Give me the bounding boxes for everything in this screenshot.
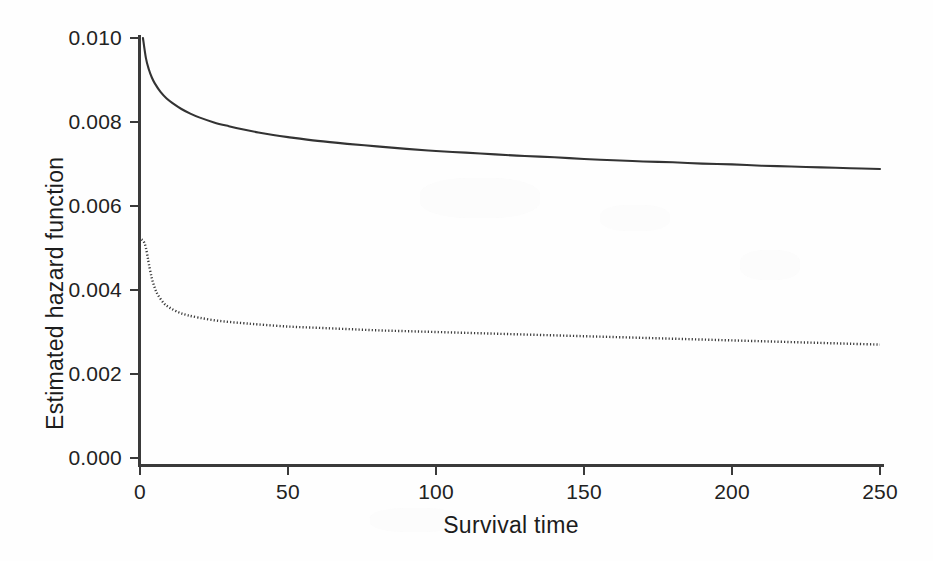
axis-group [130, 35, 884, 475]
x-tick-label: 0 [134, 480, 146, 504]
data-series-group [141, 38, 880, 345]
x-tick-label: 150 [566, 480, 602, 504]
plot-canvas [0, 0, 933, 561]
hazard-function-figure: 0.0000.0020.0040.0060.0080.010 050100150… [0, 0, 933, 561]
y-axis-ticks [130, 38, 139, 458]
y-axis-title: Estimated hazard function [42, 157, 69, 430]
series-dotted-hazard-curve [141, 240, 880, 345]
x-tick-label: 250 [862, 480, 898, 504]
x-tick-label: 200 [714, 480, 750, 504]
x-axis-title: Survival time [443, 512, 579, 539]
y-tick-label: 0.010 [0, 26, 122, 50]
y-tick-label: 0.008 [0, 110, 122, 134]
y-tick-label: 0.000 [0, 446, 122, 470]
x-axis-ticks [140, 466, 880, 475]
series-solid-hazard-curve [143, 38, 880, 169]
x-tick-label: 100 [418, 480, 454, 504]
x-tick-label: 50 [276, 480, 300, 504]
